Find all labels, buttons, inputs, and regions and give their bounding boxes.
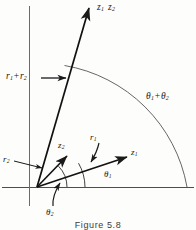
- label-r2: r2: [3, 155, 10, 165]
- complex-number-product-diagram: z1 z2 r1+r2 θ1+θ2 z2 r1 z1 r2 θ1 θ2 Figu…: [0, 0, 196, 230]
- r2-leader: [14, 161, 42, 168]
- label-z2: z2: [58, 141, 65, 151]
- r1-leader: [91, 143, 99, 162]
- label-theta2: θ2: [46, 208, 53, 218]
- label-z1: z1: [131, 148, 138, 158]
- label-product-vector: z1 z2: [97, 3, 115, 13]
- theta2-leader: [53, 183, 60, 206]
- theta1-arc: [79, 163, 86, 187]
- label-product-z2: z2: [108, 2, 115, 12]
- label-product-z1: z1: [97, 2, 104, 12]
- diagram-canvas: [0, 0, 196, 230]
- label-radius-sum: r1+r2: [6, 72, 27, 82]
- angle-sum-arc: [65, 66, 188, 188]
- label-r1: r1: [90, 133, 97, 143]
- figure-caption: Figure 5.8: [0, 220, 196, 230]
- label-theta1: θ1: [104, 170, 111, 180]
- label-angle-sum: θ1+θ2: [146, 92, 169, 102]
